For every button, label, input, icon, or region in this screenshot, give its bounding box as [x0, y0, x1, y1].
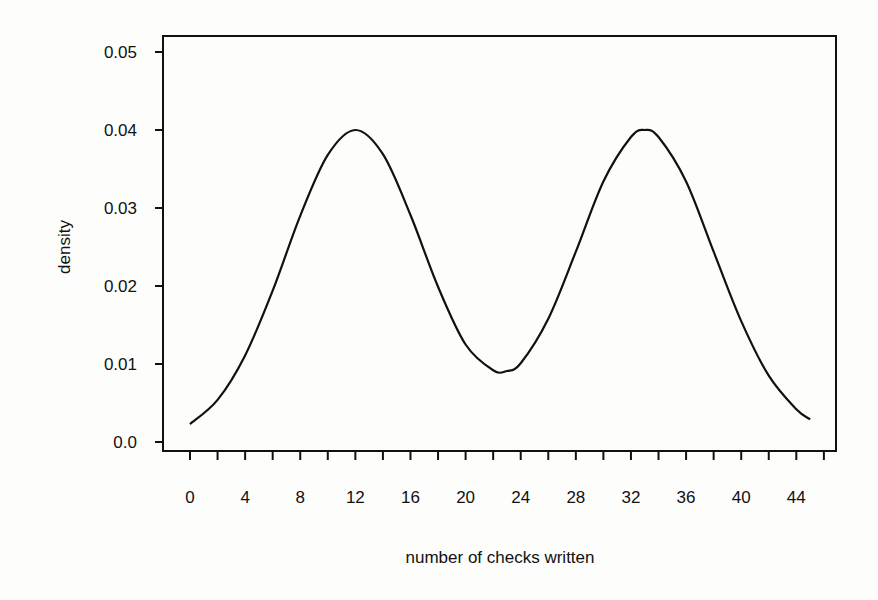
x-tick-label: 12	[346, 488, 365, 507]
y-tick-label: 0.04	[104, 121, 137, 140]
x-tick-label: 40	[732, 488, 751, 507]
y-tick-label: 0.0	[113, 433, 137, 452]
x-tick-label: 36	[677, 488, 696, 507]
y-axis: 0.00.010.020.030.040.05	[104, 43, 163, 452]
x-tick-label: 24	[511, 488, 530, 507]
x-tick-label: 44	[787, 488, 806, 507]
x-tick-label: 32	[621, 488, 640, 507]
density-curve	[190, 130, 810, 424]
y-tick-label: 0.01	[104, 355, 137, 374]
y-tick-label: 0.02	[104, 277, 137, 296]
y-axis-title: density	[55, 220, 74, 274]
x-tick-label: 4	[240, 488, 249, 507]
x-tick-label: 8	[296, 488, 305, 507]
x-tick-label: 20	[456, 488, 475, 507]
y-tick-label: 0.03	[104, 199, 137, 218]
x-tick-label: 16	[401, 488, 420, 507]
x-tick-label: 28	[566, 488, 585, 507]
x-axis: 048121620242832364044	[185, 451, 824, 507]
y-tick-label: 0.05	[104, 43, 137, 62]
x-tick-label: 0	[185, 488, 194, 507]
density-chart: 0.00.010.020.030.040.05 0481216202428323…	[0, 0, 878, 600]
x-axis-title: number of checks written	[406, 548, 595, 567]
plot-frame	[163, 36, 836, 451]
